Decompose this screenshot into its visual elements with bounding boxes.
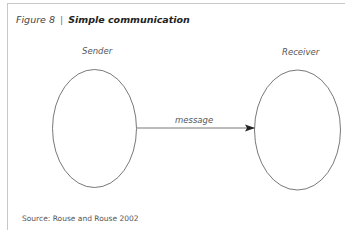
- communication-diagram: [0, 0, 345, 230]
- sender-node: [53, 70, 137, 188]
- receiver-node: [255, 70, 341, 190]
- receiver-label: Receiver: [282, 47, 319, 57]
- message-label: message: [175, 115, 213, 125]
- source-citation: Source: Rouse and Rouse 2002: [22, 214, 139, 223]
- sender-label: Sender: [82, 46, 112, 56]
